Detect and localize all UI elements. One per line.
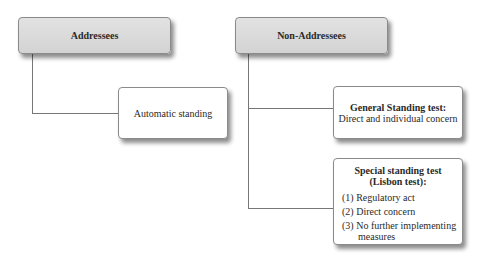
criterion-no-implementing-measures-cont: measures (342, 231, 462, 242)
automatic-standing-label: Automatic standing (134, 108, 213, 119)
criterion-no-implementing-measures: (3) No further implementing (342, 220, 462, 231)
non-addressees-label: Non-Addressees (277, 30, 346, 41)
special-standing-box: Special standing test (Lisbon test): (1)… (333, 158, 463, 245)
criterion-regulatory-act: (1) Regulatory act (342, 192, 462, 203)
non-addressees-box: Non-Addressees (235, 17, 388, 54)
connector-addressees-vertical (32, 54, 33, 113)
connector-addressees-horizontal (32, 113, 118, 114)
connector-general-horizontal (248, 108, 333, 109)
general-standing-title: General Standing test: (350, 102, 446, 113)
addressees-label: Addressees (71, 30, 119, 41)
connector-special-horizontal (248, 208, 333, 209)
criterion-direct-concern: (2) Direct concern (342, 206, 462, 217)
general-standing-subtitle: Direct and individual concern (338, 113, 457, 124)
special-standing-criteria: (1) Regulatory act (2) Direct concern (3… (334, 189, 462, 242)
connector-nonaddressees-vertical (248, 54, 249, 208)
special-standing-title: Special standing test (354, 165, 441, 176)
automatic-standing-box: Automatic standing (118, 87, 228, 139)
general-standing-box: General Standing test: Direct and indivi… (333, 86, 463, 139)
addressees-box: Addressees (18, 17, 171, 54)
special-standing-title-sub: (Lisbon test): (370, 176, 427, 187)
